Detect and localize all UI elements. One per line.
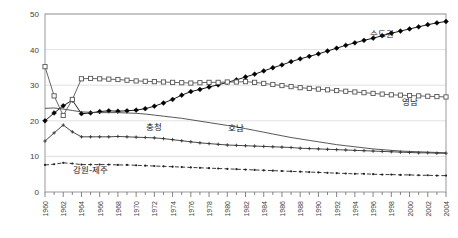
series-marker-4 <box>53 163 55 165</box>
series-marker-1 <box>52 94 56 98</box>
series-marker-1 <box>307 86 311 90</box>
series-marker-0 <box>152 104 157 109</box>
x-tick-label-group: 1982 <box>243 201 250 217</box>
x-tick-label-group: 1994 <box>352 201 359 217</box>
series-marker-1 <box>298 86 302 90</box>
series-marker-4 <box>144 165 146 167</box>
series-marker-1 <box>207 80 211 84</box>
series-marker-1 <box>353 90 357 94</box>
y-tick-label: 50 <box>30 10 39 19</box>
x-tick-label: 1980 <box>224 201 231 217</box>
x-tick-label: 1970 <box>133 201 140 217</box>
series-marker-0 <box>407 27 412 32</box>
series-marker-1 <box>280 83 284 87</box>
series-marker-1 <box>234 80 238 84</box>
series-marker-0 <box>307 54 312 59</box>
x-tick-label: 1988 <box>297 201 304 217</box>
series-marker-4 <box>199 167 201 169</box>
x-tick-label-group: 1964 <box>78 201 85 217</box>
series-marker-4 <box>308 171 310 173</box>
series-marker-1 <box>143 79 147 83</box>
series-marker-4 <box>427 174 429 176</box>
series-marker-1 <box>243 80 247 84</box>
series-marker-1 <box>435 94 439 98</box>
series-marker-3 <box>262 145 265 148</box>
x-tick-label-group: 2000 <box>407 201 414 217</box>
series-marker-1 <box>79 77 83 81</box>
series-marker-3 <box>144 136 147 139</box>
series-marker-3 <box>244 144 247 147</box>
series-marker-0 <box>143 106 148 111</box>
x-tick-label: 1964 <box>78 201 85 217</box>
series-marker-4 <box>162 165 164 167</box>
series-marker-1 <box>107 77 111 81</box>
x-tick-label-group: 1996 <box>370 201 377 217</box>
x-tick-label: 1982 <box>243 201 250 217</box>
series-marker-1 <box>125 78 129 82</box>
x-tick-label: 2004 <box>443 201 450 217</box>
x-tick-label: 1978 <box>206 201 213 217</box>
series-marker-1 <box>70 97 74 101</box>
series-marker-3 <box>116 135 119 138</box>
x-tick-label: 1990 <box>315 201 322 217</box>
series-marker-0 <box>444 19 449 24</box>
series-marker-1 <box>389 93 393 97</box>
series-marker-4 <box>254 169 256 171</box>
series-marker-0 <box>170 97 175 102</box>
series-marker-0 <box>416 24 421 29</box>
series-marker-4 <box>418 174 420 176</box>
series-label-1: 영남 <box>402 97 418 107</box>
series-marker-4 <box>381 173 383 175</box>
series-marker-4 <box>299 171 301 173</box>
x-tick-label: 1968 <box>115 201 122 217</box>
series-marker-3 <box>189 140 192 143</box>
series-marker-1 <box>98 77 102 81</box>
x-tick-label-group: 1974 <box>170 201 177 217</box>
series-marker-0 <box>289 59 294 64</box>
chart-canvas: 0102030405019601962196419661968197019721… <box>0 0 458 238</box>
series-marker-1 <box>116 77 120 81</box>
series-label-0: 수도권 <box>370 29 394 39</box>
series-marker-4 <box>317 171 319 173</box>
series-marker-1 <box>325 88 329 92</box>
series-marker-1 <box>43 65 47 69</box>
series-marker-0 <box>398 29 403 34</box>
series-marker-4 <box>263 169 265 171</box>
x-tick-label-group: 1972 <box>151 201 158 217</box>
series-marker-0 <box>280 63 285 68</box>
x-tick-label-group: 2004 <box>443 201 450 217</box>
series-marker-4 <box>44 164 46 166</box>
series-marker-4 <box>372 173 374 175</box>
series-marker-3 <box>317 147 320 150</box>
series-marker-1 <box>253 80 257 84</box>
x-tick-label: 1960 <box>42 201 49 217</box>
x-tick-label: 1966 <box>97 201 104 217</box>
series-marker-0 <box>343 43 348 48</box>
series-marker-1 <box>316 87 320 91</box>
x-tick-label-group: 2002 <box>425 201 432 217</box>
x-tick-label-group: 1976 <box>188 201 195 217</box>
series-marker-1 <box>161 80 165 84</box>
series-marker-3 <box>98 135 101 138</box>
series-marker-1 <box>380 92 384 96</box>
series-marker-4 <box>272 170 274 172</box>
series-marker-0 <box>316 51 321 56</box>
series-marker-4 <box>181 166 183 168</box>
series-marker-0 <box>425 22 430 27</box>
series-marker-0 <box>298 56 303 61</box>
series-marker-3 <box>198 141 201 144</box>
x-tick-label-group: 1986 <box>279 201 286 217</box>
series-marker-4 <box>436 175 438 177</box>
series-marker-0 <box>188 89 193 94</box>
series-marker-0 <box>97 109 102 114</box>
series-marker-4 <box>354 173 356 175</box>
series-marker-3 <box>308 147 311 150</box>
series-marker-0 <box>252 72 257 77</box>
series-marker-0 <box>261 69 266 74</box>
series-marker-3 <box>153 136 156 139</box>
series-marker-3 <box>216 143 219 146</box>
series-marker-3 <box>381 150 384 153</box>
series-marker-1 <box>371 91 375 95</box>
series-marker-0 <box>270 65 275 70</box>
series-marker-4 <box>217 167 219 169</box>
